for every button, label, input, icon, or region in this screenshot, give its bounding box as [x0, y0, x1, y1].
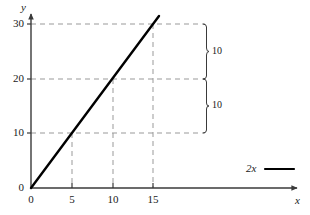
ytick-label-10: 10: [2, 127, 24, 138]
series-line-2x: [31, 16, 159, 188]
gridlines-vertical: [72, 24, 153, 188]
plot-area: [0, 0, 310, 215]
gridlines-horizontal: [31, 24, 205, 133]
xtick-label-0: 0: [21, 194, 41, 205]
x-axis-label: x: [295, 195, 300, 206]
brace-upper: [203, 24, 209, 79]
chart-figure: 30 20 10 0 0 5 10 15 y x 10 10 2x: [0, 0, 310, 215]
ytick-label-0: 0: [2, 182, 24, 193]
brace-label-upper: 10: [212, 46, 222, 56]
ytick-label-20: 20: [2, 73, 24, 84]
y-axis-label: y: [21, 2, 26, 13]
brace-label-lower: 10: [212, 100, 222, 110]
legend-label-2x: 2x: [246, 163, 256, 174]
xtick-label-5: 5: [62, 194, 82, 205]
brace-lower: [203, 79, 209, 133]
x-axis-ticks: [72, 183, 153, 188]
xtick-label-15: 15: [143, 194, 163, 205]
xtick-label-10: 10: [103, 194, 123, 205]
ytick-label-30: 30: [2, 18, 24, 29]
